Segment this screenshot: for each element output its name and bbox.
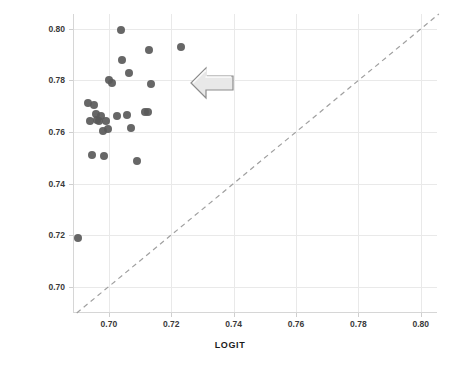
y-tick-label: 0.70 [35, 282, 65, 292]
data-point [133, 157, 141, 165]
y-tick-mark [69, 287, 73, 288]
y-tick-mark [69, 29, 73, 30]
data-point [100, 152, 108, 160]
plot-area: 0.700.720.740.760.780.800.700.720.740.76… [73, 14, 437, 313]
y-tick-label: 0.72 [35, 230, 65, 240]
data-point [145, 46, 153, 54]
data-point [147, 80, 155, 88]
data-point [117, 26, 125, 34]
y-tick-mark [69, 184, 73, 185]
identity-line-stroke [77, 14, 439, 313]
data-point [127, 124, 135, 132]
y-tick-label: 0.80 [35, 24, 65, 34]
y-tick-label: 0.78 [35, 75, 65, 85]
x-tick-label: 0.80 [413, 319, 430, 329]
y-tick-mark [69, 235, 73, 236]
x-tick-mark [421, 313, 422, 317]
scatter-plot-figure: NEURAL NETWORK LOGIT 0.700.720.740.760.7… [0, 0, 460, 367]
y-tick-mark [69, 132, 73, 133]
x-tick-mark [296, 313, 297, 317]
left-arrow-shape [191, 68, 233, 98]
x-tick-label: 0.72 [163, 319, 180, 329]
x-tick-mark [234, 313, 235, 317]
y-tick-label: 0.74 [35, 179, 65, 189]
x-tick-mark [109, 313, 110, 317]
identity-reference-line [73, 14, 437, 313]
x-tick-mark [171, 313, 172, 317]
data-point [88, 151, 96, 159]
data-point [90, 101, 98, 109]
left-arrow-annotation [190, 66, 234, 100]
x-tick-label: 0.70 [101, 319, 118, 329]
x-tick-label: 0.76 [288, 319, 305, 329]
data-point [177, 43, 185, 51]
x-tick-label: 0.74 [225, 319, 242, 329]
x-tick-label: 0.78 [350, 319, 367, 329]
x-axis-title: LOGIT [0, 340, 460, 350]
y-tick-label: 0.76 [35, 127, 65, 137]
y-tick-mark [69, 80, 73, 81]
data-point [108, 79, 116, 87]
y-axis-title-container: NEURAL NETWORK [0, 0, 30, 367]
data-point [104, 125, 112, 133]
x-tick-mark [358, 313, 359, 317]
